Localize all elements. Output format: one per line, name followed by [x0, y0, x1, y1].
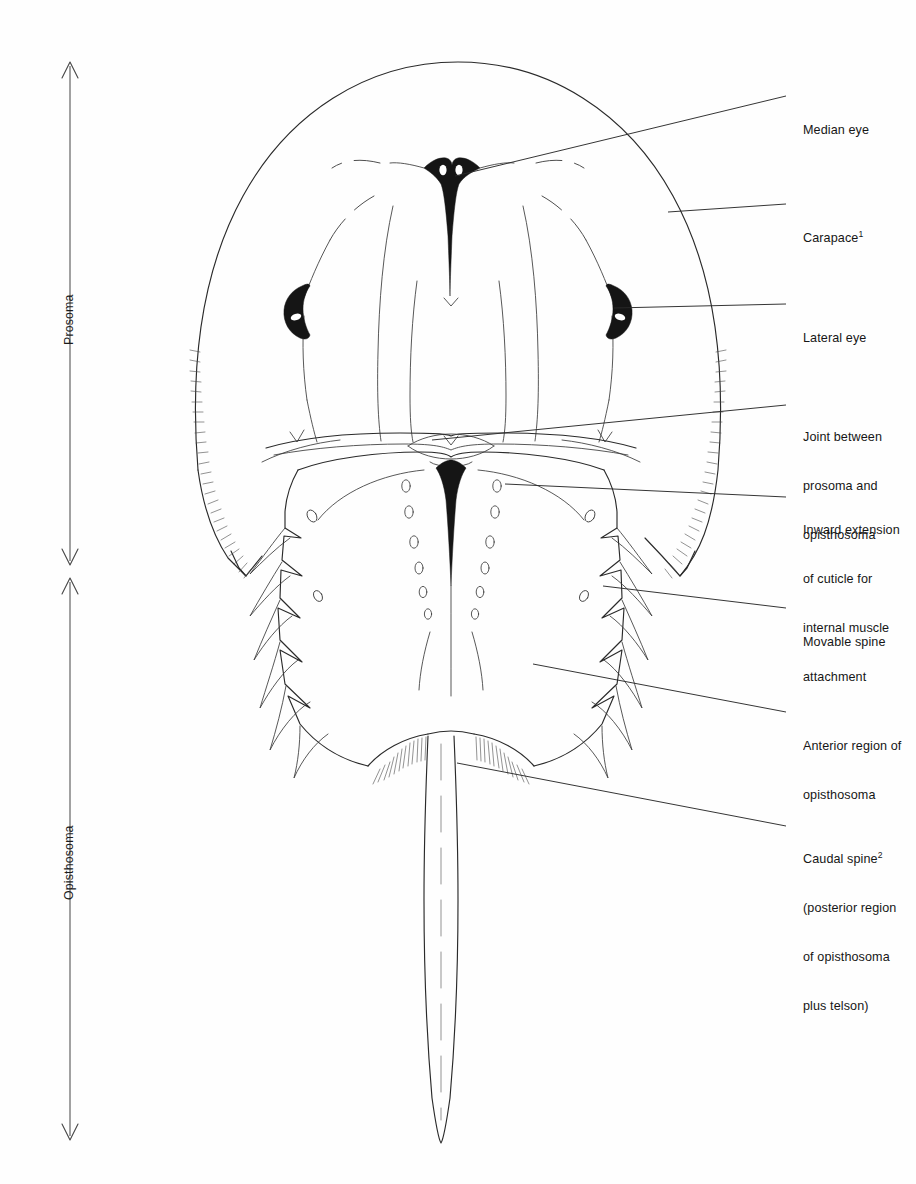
leader-joint — [432, 405, 786, 440]
callout-line: Movable spine — [803, 634, 886, 650]
caudal-spine-telson — [368, 731, 534, 1143]
callout-line: plus telson) — [803, 998, 896, 1014]
region-label-prosoma: Prosoma — [62, 294, 76, 345]
lateral-eye-left — [284, 284, 310, 339]
leader-median-eye — [455, 96, 786, 176]
leader-lateral-eye — [614, 304, 786, 308]
leader-carapace — [668, 204, 786, 212]
callout-line: Caudal spine2 — [803, 851, 896, 867]
region-label-opisthosoma: Opisthosoma — [62, 825, 76, 900]
horseshoe-crab-drawing — [0, 0, 916, 1184]
ophthalmic-ridge — [303, 240, 613, 442]
callout-label-movable-spine: Movable spine — [803, 601, 886, 683]
carapace-outline — [195, 62, 720, 576]
median-eye-structure — [390, 158, 514, 445]
callout-label-caudal-spine: Caudal spine2 (posterior region of opist… — [803, 818, 896, 1048]
callout-line: Anterior region of — [803, 738, 916, 754]
callout-label-lateral-eye: Lateral eye — [803, 297, 866, 379]
callout-line: Inward extension — [803, 522, 916, 538]
callout-line: Lateral eye — [803, 330, 866, 346]
leader-movable-spine — [603, 586, 786, 608]
callout-label-carapace: Carapace1 — [803, 197, 863, 279]
callout-line: of cuticle for — [803, 571, 916, 587]
callout-label-median-eye: Median eye — [803, 89, 869, 171]
opisthosoma-outline — [278, 452, 624, 766]
prosoma-axial-ridge — [378, 206, 539, 442]
leader-anterior-region — [533, 664, 786, 712]
callout-line: (posterior region — [803, 900, 896, 916]
leader-caudal-spine — [457, 763, 786, 826]
footnote-marker: 1 — [858, 229, 863, 239]
carapace-rim-hatch-right — [665, 350, 726, 578]
callout-line: opisthosoma — [803, 787, 916, 803]
footnote-marker: 2 — [878, 850, 883, 860]
callout-line: Carapace1 — [803, 230, 863, 246]
callout-line: of opisthosoma — [803, 949, 896, 965]
callout-line: Joint between — [803, 429, 882, 445]
anatomical-figure: Prosoma Opisthosoma Median eye Carapace1… — [0, 0, 916, 1184]
carapace-rim-hatch-left — [190, 350, 251, 578]
callout-line: Median eye — [803, 122, 869, 138]
callout-label-anterior-region: Anterior region of opisthosoma — [803, 705, 916, 836]
lateral-eye-right — [606, 284, 632, 339]
